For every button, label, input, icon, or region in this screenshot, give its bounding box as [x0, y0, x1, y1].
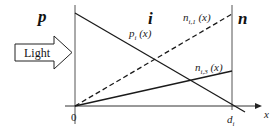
region-label-p: p	[36, 7, 47, 26]
region-label-i: i	[148, 9, 153, 28]
light-label: Light	[24, 46, 51, 60]
curve-n-i3	[75, 71, 232, 106]
d-i-label: di	[227, 113, 235, 128]
pin-diagram: p i n Light pi (x) ni,1 (x) ni,3 (x) 0 x…	[0, 0, 276, 130]
origin-label: 0	[71, 111, 77, 123]
x-axis-arrowhead-icon	[255, 103, 262, 109]
label-p-i: pi (x)	[128, 27, 152, 42]
light-arrow: Light	[15, 36, 72, 69]
region-label-n: n	[238, 9, 247, 28]
curve-n-i1	[75, 14, 232, 106]
label-n-i1: ni,1 (x)	[183, 11, 211, 26]
x-axis-label: x	[263, 108, 269, 120]
